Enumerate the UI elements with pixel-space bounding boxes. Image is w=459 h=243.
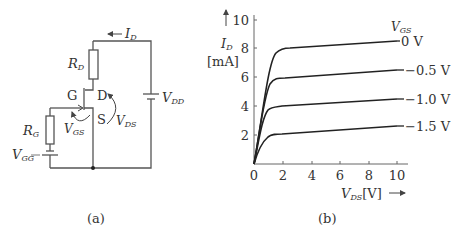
svg-text:4: 4 bbox=[308, 168, 316, 183]
y-axis-unit: [mA] bbox=[207, 54, 239, 69]
legend-neg1.0v: −1.0 V bbox=[405, 92, 451, 107]
caption-a: (a) bbox=[87, 211, 105, 226]
label-rg: RG bbox=[22, 123, 40, 139]
y-ticks: 2 4 6 8 10 bbox=[232, 13, 257, 143]
iv-chart: 2 4 6 8 10 0 2 4 6 8 10 ID [mA] VDS[V] bbox=[207, 10, 451, 226]
svg-text:10: 10 bbox=[389, 168, 406, 183]
label-drain: D bbox=[97, 88, 107, 103]
svg-text:8: 8 bbox=[365, 168, 373, 183]
svg-text:2: 2 bbox=[241, 128, 249, 143]
x-axis-label: VDS[V] bbox=[341, 186, 382, 202]
vds-arrow-icon bbox=[107, 94, 116, 124]
svg-text:2: 2 bbox=[279, 168, 287, 183]
svg-text:4: 4 bbox=[241, 99, 249, 114]
svg-text:10: 10 bbox=[232, 13, 249, 28]
label-rd: RD bbox=[67, 56, 85, 72]
legend-neg1.5v: −1.5 V bbox=[405, 119, 451, 134]
legend-title: VGS bbox=[391, 20, 412, 35]
circuit-diagram: ID RD G D S VGS VDS RG VGG bbox=[12, 26, 185, 226]
caption-b: (b) bbox=[318, 211, 336, 226]
svg-text:8: 8 bbox=[241, 41, 249, 56]
junction-dot bbox=[91, 166, 95, 170]
svg-text:0: 0 bbox=[250, 168, 258, 183]
figure: ID RD G D S VGS VDS RG VGG bbox=[0, 0, 459, 243]
gate-resistor bbox=[46, 116, 54, 144]
drain-resistor bbox=[89, 50, 98, 79]
label-vds: VDS bbox=[116, 114, 137, 129]
svg-text:6: 6 bbox=[336, 168, 344, 183]
curve-vgs-neg1.5 bbox=[254, 126, 397, 164]
label-gate: G bbox=[67, 88, 77, 103]
curve-vgs-0 bbox=[254, 41, 397, 164]
curve-vgs-neg0.5 bbox=[254, 70, 397, 164]
y-axis-label: ID bbox=[220, 36, 233, 52]
svg-text:6: 6 bbox=[241, 70, 249, 85]
label-id: ID bbox=[124, 26, 137, 42]
top-wire bbox=[93, 41, 151, 92]
label-vgg: VGG bbox=[12, 147, 35, 163]
label-vdd: VDD bbox=[162, 90, 185, 106]
label-vgs: VGS bbox=[64, 122, 85, 137]
label-source: S bbox=[97, 112, 106, 127]
legend-0v: 0 V bbox=[401, 34, 423, 49]
vgs-arrow-icon bbox=[72, 112, 90, 121]
legend-neg0.5v: −0.5 V bbox=[405, 63, 451, 78]
